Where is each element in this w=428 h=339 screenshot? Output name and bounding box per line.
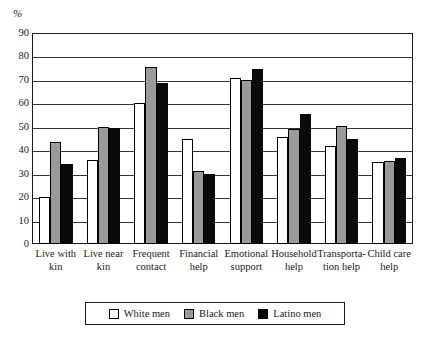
x-axis-label-5: Householdhelp [267,248,321,273]
chart-legend: White menBlack menLatino men [85,302,345,325]
y-axis-tick-20: 20 [3,192,29,203]
plot-area [32,33,413,244]
x-label-line: kin [29,261,83,274]
y-axis-tick-40: 40 [3,145,29,156]
x-label-line: kin [77,261,131,274]
gridline-40 [33,151,412,152]
x-label-line: Emotional [220,248,274,261]
y-axis-tick-30: 30 [3,168,29,179]
x-axis-label-2: Frequentcontact [124,248,178,273]
y-axis-tick-70: 70 [3,75,29,86]
x-label-line: tion help [315,261,369,274]
x-label-line: help [267,261,321,274]
y-axis-tick-80: 80 [3,51,29,62]
x-label-line: Household [267,248,321,261]
gridline-50 [33,128,412,129]
x-axis-label-0: Live withkin [29,248,83,273]
x-axis-label-7: Child carehelp [362,248,416,273]
legend-label: Latino men [273,308,321,319]
y-axis-tick-labels: 9080706050403020100 [0,33,29,244]
x-label-line: Financial [172,248,226,261]
x-label-line: Live with [29,248,83,261]
x-axis-label-6: Transporta-tion help [315,248,369,273]
x-label-line: contact [124,261,178,274]
legend-swatch-icon [258,309,268,319]
gridline-60 [33,104,412,105]
gridline-70 [33,81,412,82]
gridline-30 [33,175,412,176]
x-axis-label-1: Live nearkin [77,248,131,273]
x-label-line: Child care [362,248,416,261]
y-axis-unit-label: % [13,8,22,19]
legend-swatch-icon [109,309,119,319]
x-label-line: Transporta- [315,248,369,261]
legend-item-gray: Black men [184,308,244,319]
x-axis-category-labels: Live withkinLive nearkinFrequentcontactF… [32,248,413,288]
legend-label: Black men [199,308,244,319]
x-axis-label-3: Financialhelp [172,248,226,273]
x-label-line: Frequent [124,248,178,261]
y-axis-tick-10: 10 [3,215,29,226]
legend-item-black: Latino men [258,308,321,319]
gridline-20 [33,198,412,199]
legend-item-white: White men [109,308,170,319]
legend-label: White men [124,308,170,319]
gridline-10 [33,222,412,223]
x-label-line: Live near [77,248,131,261]
legend-swatch-icon [184,309,194,319]
x-axis-label-4: Emotionalsupport [220,248,274,273]
x-label-line: help [362,261,416,274]
y-axis-tick-50: 50 [3,122,29,133]
y-axis-tick-90: 90 [3,28,29,39]
gridline-80 [33,57,412,58]
x-label-line: support [220,261,274,274]
bar-chart: % 9080706050403020100 Live withkinLive n… [0,0,428,339]
y-axis-tick-0: 0 [3,239,29,250]
y-axis-tick-60: 60 [3,98,29,109]
x-label-line: help [172,261,226,274]
